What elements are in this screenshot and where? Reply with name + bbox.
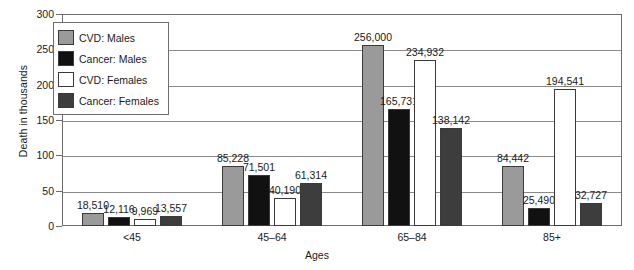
bar-value-label: 13,557 (145, 202, 197, 214)
bar-group: 85,22871,50140,19061,314 (222, 14, 322, 226)
bar-value-label: 234,932 (399, 46, 451, 58)
bar-value-label: 138,142 (425, 114, 477, 126)
bar (388, 109, 410, 226)
bar (528, 208, 550, 226)
x-tick-label: 45–64 (232, 231, 312, 243)
bar (362, 45, 384, 226)
legend-label: CVD: Females (79, 74, 147, 86)
bar (580, 203, 602, 226)
legend-swatch-icon (58, 51, 74, 66)
bar-value-label: 84,442 (487, 152, 539, 164)
x-tick-label: 65–84 (372, 231, 452, 243)
y-tick-mark (56, 226, 62, 227)
x-tick-label: 85+ (512, 231, 592, 243)
legend-label: Cancer: Females (79, 95, 159, 107)
chart-legend: CVD: MalesCancer: MalesCVD: FemalesCance… (53, 22, 169, 115)
bar (274, 198, 296, 226)
y-tick-label: 0 (12, 220, 54, 232)
y-tick-label: 100 (12, 149, 54, 161)
bar (554, 89, 576, 226)
legend-label: CVD: Males (79, 32, 135, 44)
bar-value-label: 194,541 (539, 75, 591, 87)
legend-swatch-icon (58, 72, 74, 87)
x-tick-label: <45 (92, 231, 172, 243)
bar (414, 60, 436, 226)
y-tick-label: 250 (12, 43, 54, 55)
bar (222, 166, 244, 226)
bar-value-label: 71,501 (233, 161, 285, 173)
y-tick-label: 150 (12, 114, 54, 126)
legend-item: Cancer: Males (58, 48, 164, 69)
bar-group: 256,000165,731234,932138,142 (362, 14, 462, 226)
bar-value-label: 256,000 (347, 31, 399, 43)
legend-label: Cancer: Males (79, 53, 147, 65)
x-axis-title: Ages (0, 249, 634, 261)
legend-item: CVD: Males (58, 27, 164, 48)
y-tick-label: 200 (12, 79, 54, 91)
bar (300, 183, 322, 226)
legend-item: CVD: Females (58, 69, 164, 90)
legend-swatch-icon (58, 30, 74, 45)
legend-swatch-icon (58, 93, 74, 108)
bar-chart: Death in thousands 050100150200250300 18… (0, 0, 634, 270)
legend-item: Cancer: Females (58, 90, 164, 111)
bar-value-label: 61,314 (285, 169, 337, 181)
bar (440, 128, 462, 226)
bar-group: 84,44225,490194,54132,727 (502, 14, 602, 226)
y-tick-label: 50 (12, 185, 54, 197)
bar (160, 216, 182, 226)
bar (134, 219, 156, 226)
y-tick-label: 300 (12, 8, 54, 20)
bar-value-label: 32,727 (565, 189, 617, 201)
bar (108, 217, 130, 226)
